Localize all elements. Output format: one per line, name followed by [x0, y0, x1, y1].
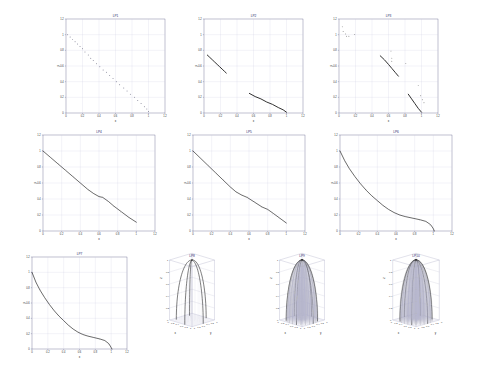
outlier-point [424, 102, 425, 103]
scatter-point [134, 97, 135, 98]
scatter-point [80, 46, 81, 47]
svg-text:0.2: 0.2 [60, 232, 64, 236]
x-axis-label-p7: x [79, 355, 81, 359]
svg-text:0.4: 0.4 [198, 80, 202, 84]
svg-text:1: 1 [136, 232, 138, 236]
scatter-point [88, 55, 89, 56]
svg-text:0.8: 0.8 [198, 48, 202, 52]
svg-text:0.4: 0.4 [333, 80, 337, 84]
svg-text:0.2: 0.2 [354, 114, 358, 118]
svg-text:0.6: 0.6 [114, 114, 118, 118]
svg-text:1.2: 1.2 [187, 133, 191, 137]
plot-panel-p7[interactable]: 00.20.40.60.811.200.20.40.60.811.2LP7xy [18, 250, 130, 360]
x-axis-label-p2: x [253, 119, 255, 123]
svg-text:0.2: 0.2 [171, 322, 175, 324]
y-axis-label-p7: y [22, 302, 26, 304]
svg-text:0.4: 0.4 [97, 114, 101, 118]
svg-text:0.2: 0.2 [81, 114, 85, 118]
svg-text:1: 1 [304, 327, 306, 329]
z-axis-label-p9: z [269, 277, 273, 279]
plot-panel-p6[interactable]: 00.20.40.60.811.200.20.40.60.811.2LP6xy [325, 128, 455, 242]
svg-text:0.2: 0.2 [26, 332, 30, 336]
svg-text:0.6: 0.6 [202, 325, 206, 327]
svg-text:0: 0 [192, 232, 194, 236]
svg-text:1.2: 1.2 [125, 350, 129, 354]
y-axis-label-p9: y [320, 331, 322, 335]
plot-panel-p1[interactable]: 00.20.40.60.811.200.20.40.60.811.2LP1xy [52, 12, 168, 124]
scatter-point [130, 94, 131, 95]
svg-text:0.8: 0.8 [421, 326, 425, 328]
svg-text:0.6: 0.6 [180, 325, 184, 327]
svg-text:0.4: 0.4 [276, 295, 280, 297]
plot-panel-p4[interactable]: 00.20.40.60.811.200.20.40.60.811.2LP4xy [28, 128, 158, 242]
plot-panel-p8[interactable]: 00.20.40.60.8100.20.40.60.8100.20.40.60.… [138, 248, 246, 360]
svg-text:0.2: 0.2 [333, 95, 337, 99]
svg-text:0.4: 0.4 [235, 114, 239, 118]
svg-text:0.2: 0.2 [389, 307, 393, 309]
x-axis-label-p3: x [388, 119, 390, 123]
svg-text:0: 0 [31, 350, 33, 354]
svg-text:0.8: 0.8 [413, 232, 417, 236]
scatter-point [109, 75, 110, 76]
svg-text:0: 0 [326, 321, 328, 323]
svg-text:0.2: 0.2 [166, 307, 170, 309]
svg-text:1: 1 [390, 259, 392, 261]
svg-text:0.6: 0.6 [198, 64, 202, 68]
plot-panel-p5[interactable]: 00.20.40.60.811.200.20.40.60.811.2LP5xy [178, 128, 308, 242]
svg-text:0.8: 0.8 [26, 286, 30, 290]
plot-panel-p10[interactable]: 00.20.40.60.8100.20.40.60.8100.20.40.60.… [360, 248, 472, 360]
x-axis-label-p9: x [284, 331, 286, 335]
svg-text:0.6: 0.6 [333, 64, 337, 68]
svg-text:0.6: 0.6 [37, 181, 41, 185]
svg-text:0.4: 0.4 [26, 316, 30, 320]
svg-text:0.8: 0.8 [295, 326, 299, 328]
outlier-point [391, 61, 392, 62]
scatter-point [144, 106, 145, 107]
svg-text:0: 0 [335, 111, 337, 115]
svg-text:1: 1 [277, 259, 279, 261]
mesh-rib [190, 260, 192, 315]
svg-text:0.4: 0.4 [166, 295, 170, 297]
svg-text:0.4: 0.4 [187, 197, 191, 201]
svg-text:0.8: 0.8 [408, 326, 412, 328]
scatter-point [84, 51, 85, 52]
svg-text:0.4: 0.4 [399, 323, 403, 325]
svg-text:0.2: 0.2 [210, 232, 214, 236]
svg-text:0.6: 0.6 [387, 114, 391, 118]
svg-text:0.4: 0.4 [370, 114, 374, 118]
svg-text:0.6: 0.6 [187, 181, 191, 185]
scatter-point [123, 87, 124, 88]
svg-text:0.2: 0.2 [281, 322, 285, 324]
scatter-point [103, 69, 104, 70]
svg-text:0.2: 0.2 [357, 232, 361, 236]
svg-text:1: 1 [189, 149, 191, 153]
svg-text:1: 1 [62, 33, 64, 37]
panel-title-p8: LP8 [189, 254, 195, 258]
svg-text:0: 0 [42, 232, 44, 236]
svg-text:0.4: 0.4 [286, 323, 290, 325]
svg-text:0: 0 [339, 232, 341, 236]
svg-text:1: 1 [433, 232, 435, 236]
y-axis-label-p10: y [435, 331, 437, 335]
plot-panel-p2[interactable]: 00.20.40.60.811.200.20.40.60.811.2LP2xy [190, 12, 306, 124]
svg-text:0.8: 0.8 [94, 350, 98, 354]
scatter-point [77, 44, 78, 45]
svg-text:0.6: 0.6 [97, 232, 101, 236]
svg-text:1: 1 [418, 327, 420, 329]
svg-text:0.8: 0.8 [389, 271, 393, 273]
svg-text:0.2: 0.2 [321, 322, 325, 324]
scatter-point [116, 81, 117, 82]
svg-text:0.4: 0.4 [334, 197, 338, 201]
svg-text:0.6: 0.6 [247, 232, 251, 236]
plot-panel-p3[interactable]: 00.20.40.60.811.200.20.40.60.811.2LP3xy [325, 12, 441, 124]
x-axis-label-p6: x [395, 237, 397, 241]
z-axis-label-p10: z [382, 277, 386, 279]
svg-text:0.2: 0.2 [276, 307, 280, 309]
svg-text:1: 1 [300, 327, 302, 329]
svg-text:0.8: 0.8 [187, 165, 191, 169]
panel-title-p6: LP6 [393, 130, 399, 134]
scatter-point [141, 103, 142, 104]
plot-panel-p9[interactable]: 00.20.40.60.8100.20.40.60.8100.20.40.60.… [248, 248, 356, 360]
svg-text:0.8: 0.8 [116, 232, 120, 236]
svg-text:0: 0 [189, 229, 191, 233]
